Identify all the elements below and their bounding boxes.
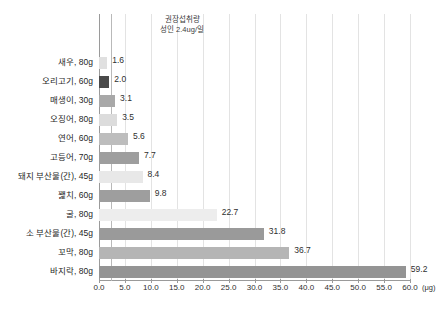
y-axis-category-label: 연어, 60g [0, 129, 93, 148]
bar [99, 95, 115, 107]
bar-chart: 새우, 80g오리고기, 60g매생이, 30g오징어, 80g연어, 60g고… [0, 0, 444, 310]
gridline [410, 14, 411, 281]
x-axis-tick-label: 25.0 [221, 283, 237, 292]
x-axis-tick-label: 40.0 [299, 283, 315, 292]
bar-value-label: 7.7 [144, 150, 156, 160]
bar-value-label: 2.0 [114, 74, 126, 84]
x-axis-tick-label: 55.0 [376, 283, 392, 292]
x-axis-tick-label: 30.0 [247, 283, 263, 292]
bar [99, 133, 128, 145]
y-axis-category-label: 꼬막, 80g [0, 243, 93, 262]
bar-value-label: 1.6 [112, 55, 124, 65]
bar [99, 228, 264, 240]
bar [99, 266, 406, 278]
bar-row: 8.4 [99, 167, 410, 186]
bar-row: 5.6 [99, 129, 410, 148]
y-axis-category-label: 바지락, 80g [0, 262, 93, 281]
plot-area: 1.62.03.13.55.67.78.49.822.731.836.759.2 [99, 14, 410, 281]
annotation-line-2: 성인 2.4ug/일 [122, 25, 242, 35]
bar [99, 247, 289, 259]
bar-value-label: 3.1 [120, 93, 132, 103]
bar [99, 209, 217, 221]
bar-rows: 1.62.03.13.55.67.78.49.822.731.836.759.2 [99, 53, 410, 280]
x-axis-tick-label: 20.0 [195, 283, 211, 292]
bar-row: 22.7 [99, 205, 410, 224]
bar-row: 36.7 [99, 243, 410, 262]
y-axis-category-label: 오리고기, 60g [0, 72, 93, 91]
y-axis-category-label: 꽱치, 60g [0, 186, 93, 205]
bar-row: 1.6 [99, 53, 410, 72]
bar-value-label: 31.8 [269, 226, 286, 236]
x-axis-tick-label: 50.0 [350, 283, 366, 292]
x-axis-tick-label: 0.0 [93, 283, 104, 292]
bar [99, 171, 143, 183]
bar [99, 152, 139, 164]
y-axis-category-label: 새우, 80g [0, 53, 93, 72]
bar-value-label: 3.5 [122, 112, 134, 122]
x-axis-tick-label: 35.0 [273, 283, 289, 292]
x-axis-tick-label: 10.0 [143, 283, 159, 292]
bar [99, 190, 150, 202]
x-axis-unit-label: (μg) [422, 283, 436, 292]
bar-row: 7.7 [99, 148, 410, 167]
y-axis-category-label: 소 부산물(간), 45g [0, 224, 93, 243]
y-axis-category-label: 고등어, 70g [0, 148, 93, 167]
bar-value-label: 5.6 [133, 131, 145, 141]
bar [99, 57, 107, 69]
recommended-intake-annotation: 권장섭취량 성인 2.4ug/일 [122, 15, 242, 35]
bar [99, 114, 117, 126]
bar-row: 3.5 [99, 110, 410, 129]
bar-value-label: 9.8 [155, 188, 167, 198]
bar-row: 31.8 [99, 224, 410, 243]
bar-value-label: 59.2 [411, 264, 428, 274]
bar-value-label: 22.7 [222, 207, 239, 217]
bar-row: 3.1 [99, 91, 410, 110]
y-axis-category-label: 매생이, 30g [0, 91, 93, 110]
x-axis-tick-label: 5.0 [119, 283, 130, 292]
annotation-line-1: 권장섭취량 [122, 15, 242, 25]
y-axis-category-label: 굴, 80g [0, 205, 93, 224]
y-axis-category-label: 오징어, 80g [0, 110, 93, 129]
y-axis-category-label: 돼지 부산물(간), 45g [0, 167, 93, 186]
y-axis-category-labels: 새우, 80g오리고기, 60g매생이, 30g오징어, 80g연어, 60g고… [0, 53, 93, 281]
x-axis-tick-label: 15.0 [169, 283, 185, 292]
bar [99, 76, 109, 88]
bar-row: 2.0 [99, 72, 410, 91]
bar-value-label: 8.4 [148, 169, 160, 179]
bar-value-label: 36.7 [294, 245, 311, 255]
bar-row: 9.8 [99, 186, 410, 205]
x-axis-tick-labels: 0.05.010.015.020.025.030.035.040.045.050… [99, 283, 410, 303]
x-axis-tick-label: 60.0 [402, 283, 418, 292]
x-axis-tick-label: 45.0 [324, 283, 340, 292]
